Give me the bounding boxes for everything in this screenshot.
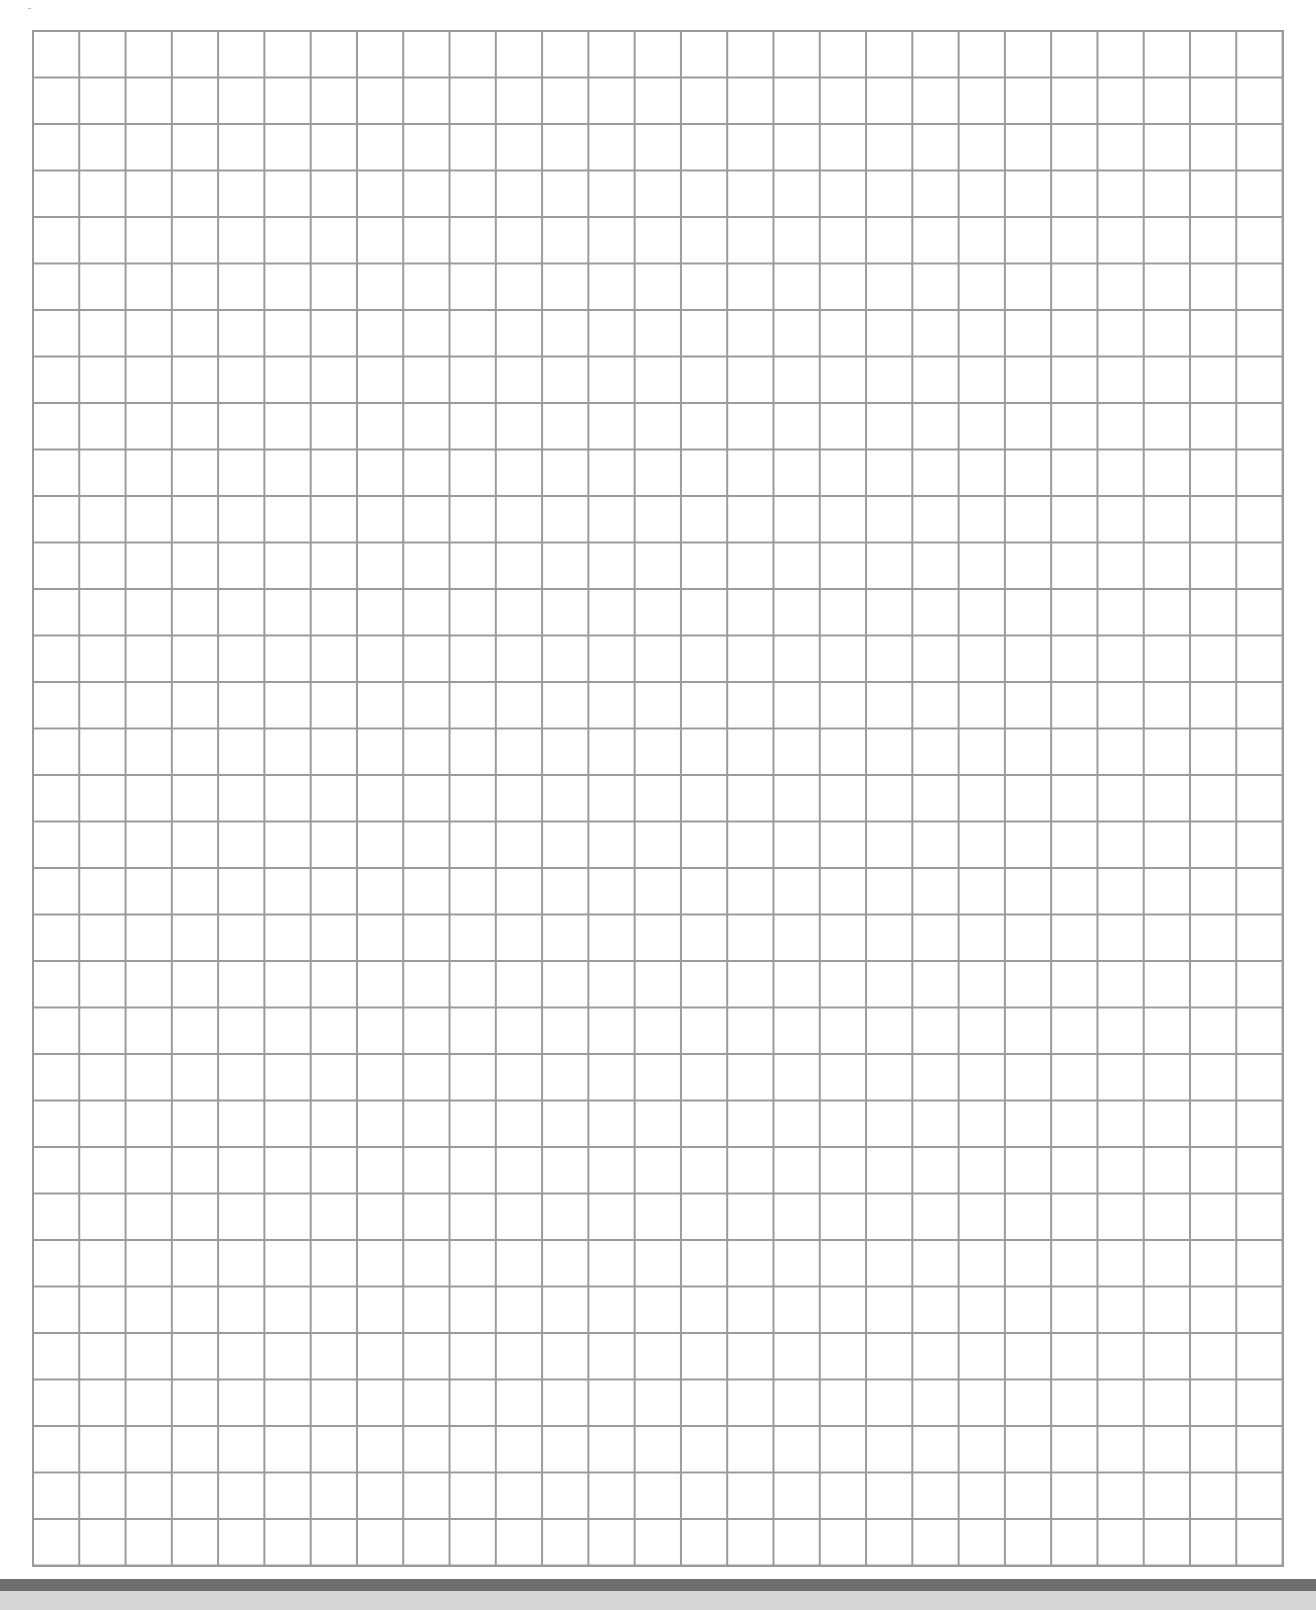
scan-edge-light-band — [0, 1591, 1316, 1610]
graph-paper-grid — [32, 30, 1284, 1567]
scan-speck — [28, 8, 31, 9]
scan-edge-dark-band — [0, 1579, 1316, 1591]
